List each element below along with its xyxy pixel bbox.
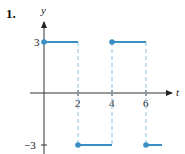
tick-label-y-neg3: −3 — [24, 139, 36, 151]
problem-number: 1. — [6, 6, 16, 21]
tick-label-y3: 3 — [34, 36, 40, 48]
dot-0 — [41, 39, 47, 45]
y-axis-label: y — [40, 4, 46, 16]
dot-2 — [75, 142, 81, 148]
t-axis-label: t — [176, 86, 180, 98]
step-function-chart: 1. y t 2 4 6 3 −3 — [0, 0, 185, 154]
dot-6 — [143, 142, 149, 148]
dot-4 — [109, 39, 115, 45]
